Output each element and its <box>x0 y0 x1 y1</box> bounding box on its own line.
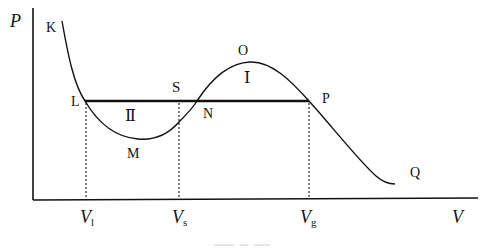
figure-caption-remnant <box>214 244 284 250</box>
point-label-k: K <box>46 21 56 35</box>
x-axis <box>33 198 478 200</box>
region-label-lower: Ⅱ <box>125 108 136 124</box>
x-axis-label: V <box>452 208 463 226</box>
tick-label-vs: Vs <box>172 208 187 228</box>
isotherm-curve <box>62 21 395 184</box>
region-label-upper: Ⅰ <box>244 70 250 86</box>
point-label-o: O <box>238 44 248 58</box>
point-label-n: N <box>203 107 213 121</box>
point-label-l: L <box>71 95 80 109</box>
point-label-q: Q <box>410 166 420 180</box>
pv-diagram <box>0 0 486 250</box>
tick-label-vl: Vl <box>80 208 94 228</box>
point-label-s: S <box>172 80 180 95</box>
tick-label-vg: Vg <box>300 208 317 228</box>
y-axis-label: P <box>10 12 21 30</box>
point-label-m: M <box>127 147 139 161</box>
point-label-p: P <box>322 92 330 106</box>
